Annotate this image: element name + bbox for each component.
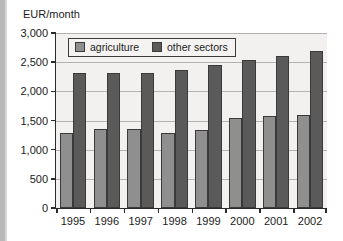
bar-agriculture-2001: [263, 116, 276, 208]
bar-agriculture-2000: [229, 118, 242, 208]
legend-swatch-agriculture: [75, 42, 85, 52]
x-axis-tick-mark: [293, 208, 295, 213]
x-axis-tick-label-2002: 2002: [298, 215, 322, 227]
x-axis-tick-mark-end: [325, 208, 327, 213]
y-axis-tick-label: 1,000: [20, 144, 48, 156]
bar-agriculture-2002: [297, 115, 310, 208]
bar-agriculture-1996: [94, 129, 107, 208]
bar-other-sectors-1998: [175, 70, 188, 208]
bar-chart-figure: EUR/month 05001,0001,5002,0002,5003,000 …: [0, 0, 343, 241]
y-axis-tick-label: 500: [30, 173, 48, 185]
x-axis-tick-label-2001: 2001: [264, 215, 288, 227]
y-axis-tick-label: 3,000: [20, 27, 48, 39]
bar-other-sectors-2001: [276, 56, 289, 208]
x-axis-tick-label-1996: 1996: [95, 215, 119, 227]
bar-agriculture-1998: [161, 133, 174, 208]
x-axis-tick-mark: [225, 208, 227, 213]
bar-agriculture-1995: [60, 133, 73, 208]
x-axis-group: 19951996199719981999200020012002: [56, 208, 327, 238]
y-axis-caption: EUR/month: [23, 8, 80, 20]
bar-other-sectors-2002: [310, 51, 323, 208]
legend-label-other-sectors: other sectors: [167, 42, 228, 53]
bar-other-sectors-1996: [107, 73, 120, 208]
legend-entry-other-sectors: other sectors: [152, 42, 228, 53]
x-axis-tick-mark: [259, 208, 261, 213]
legend-entry-agriculture: agriculture: [75, 42, 139, 53]
bars-group: [56, 33, 327, 208]
x-axis-tick-mark: [124, 208, 126, 213]
bar-other-sectors-1997: [141, 73, 154, 208]
y-axis-tick-label: 0: [42, 202, 48, 214]
y-axis-tick-label: 1,500: [20, 115, 48, 127]
x-axis-tick-label-1999: 1999: [196, 215, 220, 227]
bar-agriculture-1997: [127, 129, 140, 208]
y-axis-tick-label: 2,000: [20, 85, 48, 97]
chart-legend: agriculture other sectors: [68, 38, 236, 57]
x-axis-tick-label-1998: 1998: [162, 215, 186, 227]
bar-other-sectors-2000: [242, 60, 255, 208]
x-axis-tick-label-1997: 1997: [128, 215, 152, 227]
x-axis-tick-mark: [158, 208, 160, 213]
bar-other-sectors-1999: [208, 65, 221, 208]
x-axis-tick-mark: [90, 208, 92, 213]
y-axis-tick-label: 2,500: [20, 56, 48, 68]
x-axis-tick-label-2000: 2000: [230, 215, 254, 227]
x-axis-tick-mark: [192, 208, 194, 213]
bar-other-sectors-1995: [73, 73, 86, 208]
legend-swatch-other-sectors: [152, 42, 162, 52]
x-axis-tick-label-1995: 1995: [61, 215, 85, 227]
legend-label-agriculture: agriculture: [90, 42, 139, 53]
x-axis-tick-mark: [56, 208, 58, 213]
plot-area: 05001,0001,5002,0002,5003,000 1995199619…: [55, 33, 327, 209]
bar-agriculture-1999: [195, 130, 208, 208]
